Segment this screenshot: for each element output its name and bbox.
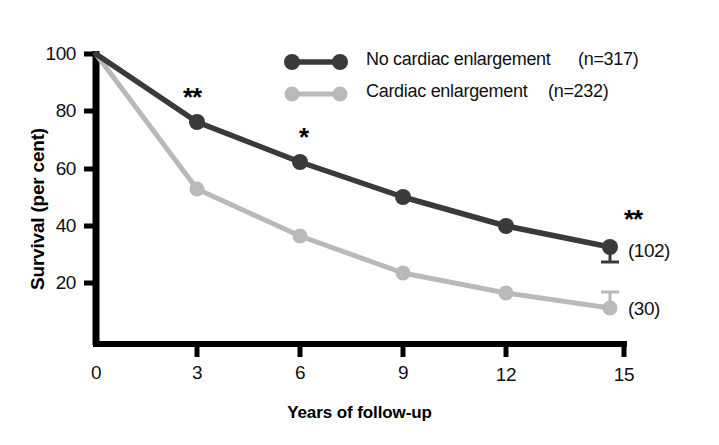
- legend-count-no-cardiac-enlargement: (n=317): [578, 49, 638, 70]
- significance-marker-year-3: **: [183, 84, 201, 110]
- legend-label-cardiac-enlargement: Cardiac enlargement: [366, 81, 527, 102]
- legend-item-cardiac-enlargement: Cardiac enlargement (n=232): [278, 78, 708, 110]
- y-tick-label-20: 20: [24, 272, 76, 294]
- y-tick-label-40: 40: [24, 215, 76, 237]
- chart-legend: No cardiac enlargement (n=317) Cardiac e…: [278, 46, 708, 110]
- survival-curve-chart: Survival (per cent) 100 80 60 40 20 0 3 …: [0, 0, 719, 445]
- endpoint-count-no-cardiac-enlargement: (102): [628, 240, 670, 262]
- legend-label-no-cardiac-enlargement: No cardiac enlargement: [366, 49, 551, 70]
- significance-marker-year-6: *: [299, 124, 308, 150]
- y-tick-label-60: 60: [24, 158, 76, 180]
- y-tick-label-100: 100: [24, 43, 76, 65]
- legend-item-no-cardiac-enlargement: No cardiac enlargement (n=317): [278, 46, 708, 78]
- x-tick-label-9: 9: [383, 362, 423, 384]
- x-axis-title: Years of follow-up: [0, 403, 719, 423]
- x-tick-label-6: 6: [280, 362, 320, 384]
- x-tick-label-0: 0: [76, 362, 116, 384]
- legend-count-cardiac-enlargement: (n=232): [548, 81, 608, 102]
- y-tick-label-80: 80: [24, 100, 76, 122]
- endpoint-count-cardiac-enlargement: (30): [628, 298, 660, 320]
- x-tick-label-3: 3: [177, 362, 217, 384]
- x-tick-label-15: 15: [604, 364, 644, 386]
- significance-marker-year-15: **: [624, 206, 642, 232]
- x-tick-label-12: 12: [486, 364, 526, 386]
